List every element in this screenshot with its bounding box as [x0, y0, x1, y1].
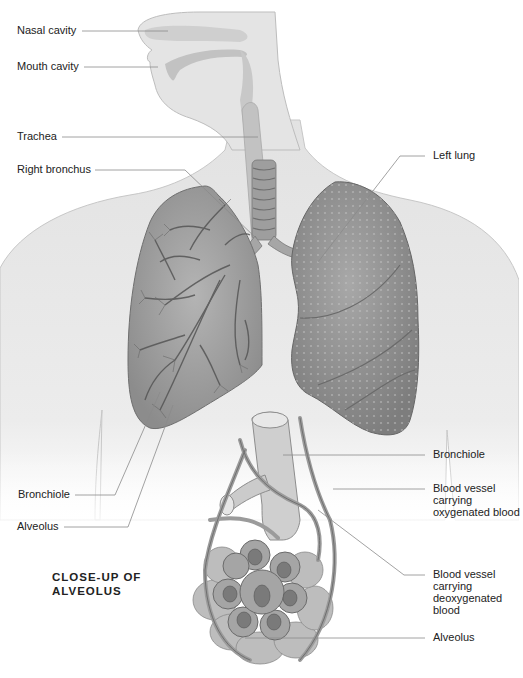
label-right-bronchus: Right bronchus — [17, 163, 91, 175]
label-nasal-cavity: Nasal cavity — [17, 24, 76, 36]
head-profile — [138, 12, 300, 150]
label-trachea: Trachea — [17, 130, 57, 142]
label-vessel-deoxygenated: Blood vessel carrying deoxygenated blood — [433, 568, 523, 616]
label-mouth-cavity: Mouth cavity — [17, 60, 79, 72]
label-alveolus-left: Alveolus — [17, 520, 59, 532]
label-left-lung: Left lung — [433, 149, 475, 161]
label-bronchiole-left: Bronchiole — [18, 488, 70, 500]
label-vessel-oxygenated: Blood vessel carrying oxygenated blood — [433, 482, 523, 518]
label-bronchiole-right: Bronchiole — [433, 448, 485, 460]
label-alveolus-right: Alveolus — [433, 631, 475, 643]
inset-title: CLOSE-UP OF ALVEOLUS — [52, 570, 162, 598]
